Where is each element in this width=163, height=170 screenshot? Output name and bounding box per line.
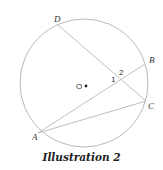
center-label-O: O bbox=[76, 82, 82, 91]
circle bbox=[20, 19, 148, 147]
point-label-B: B bbox=[149, 55, 155, 65]
segment-AB bbox=[38, 64, 145, 133]
angle-label-1: 1 bbox=[111, 75, 116, 84]
figure-caption: Illustration 2 bbox=[0, 151, 163, 163]
point-label-A: A bbox=[31, 132, 38, 142]
center-point bbox=[85, 85, 88, 88]
circle-diagram: D B C A O 1 2 bbox=[0, 0, 163, 170]
segment-DC bbox=[58, 25, 146, 101]
point-label-C: C bbox=[148, 101, 155, 111]
point-label-D: D bbox=[53, 14, 61, 24]
angle-label-2: 2 bbox=[119, 68, 124, 77]
